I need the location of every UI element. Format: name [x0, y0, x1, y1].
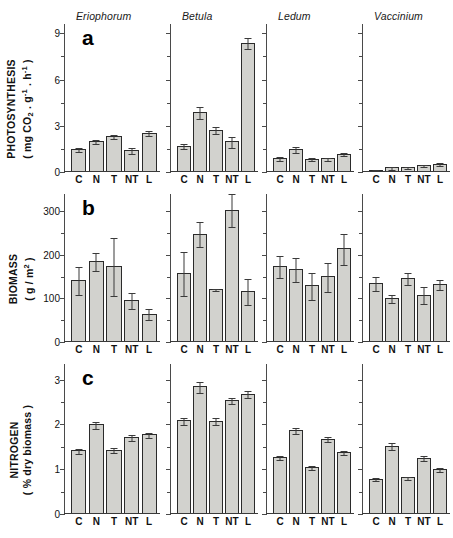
y-axis-minor-tick	[61, 103, 65, 104]
error-bar	[96, 253, 97, 270]
bar-slot	[192, 24, 208, 172]
x-tick-label-L: L	[240, 174, 256, 190]
x-tick-label-C: C	[70, 344, 88, 360]
y-axis-minor-tick	[263, 56, 267, 57]
x-tick-label-NT: NT	[224, 174, 240, 190]
bar-L	[142, 314, 157, 342]
error-bar-cap-bottom	[245, 398, 252, 399]
plot-panel-c-vaccinium: CNTNTL	[362, 364, 450, 536]
error-bar	[96, 422, 97, 429]
x-tick-label-N: N	[88, 174, 106, 190]
bar-slot	[320, 194, 336, 342]
error-bar-cap-bottom	[146, 438, 153, 439]
y-tick-labels-a: 0369	[38, 24, 62, 194]
error-bar	[328, 263, 329, 292]
y-axis-minor-tick	[263, 233, 267, 234]
bar-slot	[140, 364, 158, 514]
error-bar	[232, 194, 233, 227]
plot-panel-b-eriophorum: CNTNTL	[64, 194, 160, 364]
y-axis-tick	[60, 126, 65, 127]
x-axis-line	[64, 513, 160, 514]
error-bar-cap-top	[389, 443, 396, 444]
y-axis-tick	[358, 172, 363, 173]
species-label-betula: Betula	[182, 10, 212, 22]
plot-area	[362, 364, 450, 514]
y-tick-label: 300	[43, 206, 60, 217]
error-bar-cap-top	[181, 418, 188, 419]
y-tick-label: 100	[43, 293, 60, 304]
y-axis-minor-tick	[359, 277, 363, 278]
x-tick-label-NT: NT	[123, 516, 141, 532]
bar-slot	[88, 364, 106, 514]
error-bar-cap-top	[341, 234, 348, 235]
x-axis-line	[266, 341, 354, 342]
bar-NT	[321, 439, 335, 514]
error-bar-cap-bottom	[309, 300, 316, 301]
error-bar	[344, 234, 345, 264]
x-tick-label-L: L	[140, 516, 158, 532]
error-bar	[248, 279, 249, 305]
error-bar	[232, 137, 233, 148]
plot-panel-a-eriophorum: CNTNTL	[64, 24, 160, 194]
error-bar-cap-top	[93, 422, 100, 423]
plot-area	[266, 364, 354, 514]
bar-slot	[416, 364, 432, 514]
bar-L	[433, 469, 447, 514]
x-tick-label-NT: NT	[123, 344, 141, 360]
error-bar-cap-bottom	[146, 320, 153, 321]
bar-slot	[70, 194, 88, 342]
y-axis-minor-tick	[167, 103, 171, 104]
error-bar-cap-top	[75, 148, 82, 149]
plot-panel-b-ledum: CNTNTL	[266, 194, 354, 364]
error-bar-cap-bottom	[437, 166, 444, 167]
error-bar-cap-top	[197, 107, 204, 108]
y-axis-minor-tick	[359, 149, 363, 150]
x-tick-label-NT: NT	[123, 174, 141, 190]
y-axis-label-c: NITROGEN( % dry biomass )	[0, 364, 42, 536]
y-axis-minor-tick	[61, 277, 65, 278]
plot-panel-b-betula: CNTNTL	[170, 194, 258, 364]
error-bar-cap-bottom	[128, 441, 135, 442]
y-axis-minor-tick	[167, 56, 171, 57]
plot-area	[170, 24, 258, 172]
error-bar-cap-bottom	[421, 304, 428, 305]
x-tick-label-T: T	[208, 344, 224, 360]
error-bar-cap-top	[245, 391, 252, 392]
bar-N	[289, 430, 303, 514]
bar-T	[209, 421, 223, 514]
x-tick-label-L: L	[240, 344, 256, 360]
error-bar-cap-bottom	[421, 167, 428, 168]
x-tick-label-T: T	[208, 174, 224, 190]
x-tick-label-T: T	[208, 516, 224, 532]
error-bar-cap-top	[128, 148, 135, 149]
y-axis-label-text: PHOTOSYNTHESIS( mg CO2 . g-1 . h-1 )	[5, 59, 37, 159]
x-tick-label-C: C	[176, 516, 192, 532]
x-tick-label-C: C	[176, 174, 192, 190]
y-axis-minor-tick	[263, 277, 267, 278]
y-axis-tick	[262, 255, 267, 256]
bar-N	[89, 424, 104, 514]
bar-slot	[336, 194, 352, 342]
error-bar-cap-bottom	[75, 152, 82, 153]
x-tick-label-L: L	[140, 344, 158, 360]
bar-group	[272, 194, 352, 342]
x-tick-label-T: T	[105, 516, 123, 532]
error-bar-cap-bottom	[213, 425, 220, 426]
error-bar-cap-bottom	[373, 481, 380, 482]
bar-slot	[320, 24, 336, 172]
error-bar	[376, 277, 377, 291]
error-bar-cap-bottom	[128, 309, 135, 310]
x-axis-line	[266, 513, 354, 514]
y-axis-tick	[262, 424, 267, 425]
figure-root: EriophorumBetulaLedumVaccinium PHOTOSYNT…	[0, 0, 453, 538]
error-bar	[424, 287, 425, 304]
species-label-eriophorum: Eriophorum	[76, 10, 131, 22]
bar-C	[177, 273, 191, 342]
y-axis-tick	[262, 211, 267, 212]
bar-T	[209, 130, 223, 172]
error-bar-cap-top	[93, 140, 100, 141]
bar-slot	[224, 364, 240, 514]
bar-NT	[417, 458, 431, 514]
error-bar-cap-top	[405, 167, 412, 168]
y-axis-minor-tick	[263, 320, 267, 321]
